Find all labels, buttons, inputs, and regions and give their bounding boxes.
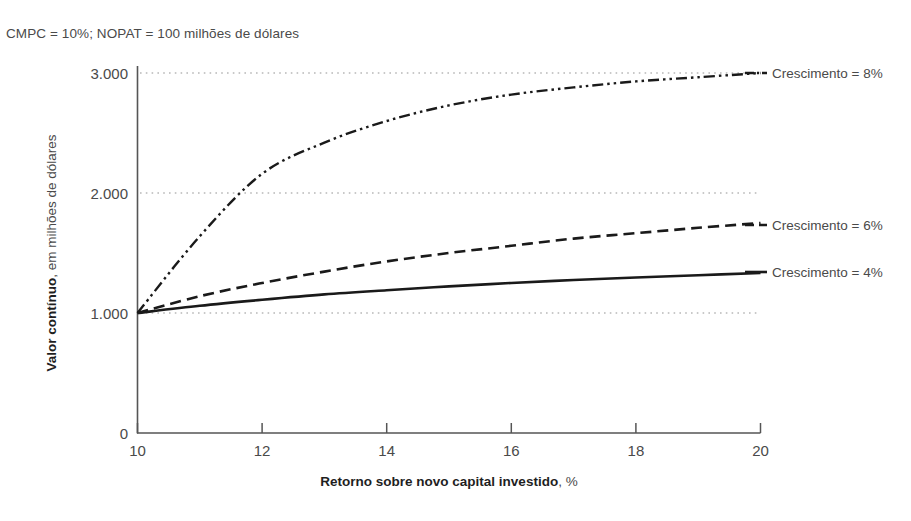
x-axis-title: Retorno sobre novo capital investido, % [320,474,577,489]
x-axis-title-rest: , % [558,474,578,489]
series-line-crescimento-6 [138,223,761,313]
y-tick-label-3000: 3.000 [90,65,128,82]
x-axis-title-bold: Retorno sobre novo capital investido [320,474,558,489]
y-axis-title: Valor contínuo, em milhões de dólares [44,134,59,371]
x-tick-label-20: 20 [752,442,769,459]
legend-label-crescimento-8: Crescimento = 8% [772,66,883,81]
y-tick-label-2000: 2.000 [90,185,128,202]
x-tick-marks [138,423,761,433]
y-tick-label-0: 0 [120,425,128,442]
x-tick-label-16: 16 [503,442,520,459]
x-tick-label-18: 18 [628,442,645,459]
chart-plot: 3.000 2.000 1.000 0 10 12 14 16 18 20 Cr… [0,0,911,521]
y-tick-label-1000: 1.000 [90,305,128,322]
legend-leaders [745,73,767,272]
legend-label-crescimento-4: Crescimento = 4% [772,265,883,280]
chart-container: CMPC = 10%; NOPAT = 100 milhões de dólar… [0,0,911,521]
x-tick-label-14: 14 [378,442,395,459]
y-axis-title-rest: , em milhões de dólares [44,134,59,278]
x-tick-label-10: 10 [129,442,146,459]
y-axis-title-bold: Valor contínuo [44,278,59,372]
series-line-crescimento-4 [138,273,761,313]
x-tick-label-12: 12 [254,442,271,459]
legend-label-crescimento-6: Crescimento = 6% [772,218,883,233]
